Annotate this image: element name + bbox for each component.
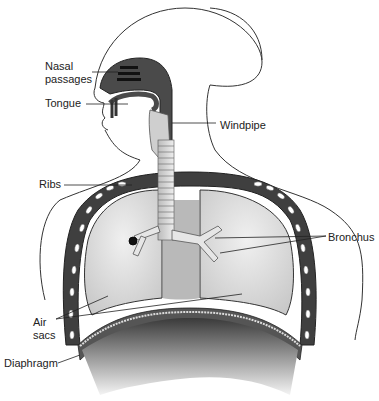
label-air-line2: sacs (33, 329, 56, 342)
label-nasal-line2: passages (45, 73, 92, 86)
trachea (158, 140, 174, 240)
label-tongue: Tongue (45, 97, 81, 110)
label-nasal-line1: Nasal (45, 60, 92, 73)
label-diaphragm: Diaphragm (4, 357, 58, 370)
label-nasal-passages: Nasal passages (45, 60, 92, 86)
right-lung (200, 190, 293, 315)
label-windpipe: Windpipe (220, 119, 266, 132)
label-bronchus: Bronchus (328, 231, 374, 244)
lungs (85, 190, 294, 315)
label-ribs: Ribs (39, 178, 61, 191)
label-air-sacs: Air sacs (33, 316, 56, 342)
diaphragm (78, 308, 302, 395)
label-air-line1: Air (33, 316, 56, 329)
